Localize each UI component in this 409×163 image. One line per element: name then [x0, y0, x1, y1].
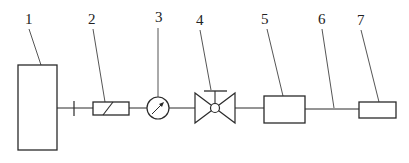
leader-lines [29, 28, 379, 108]
label-1: 1 [25, 11, 33, 27]
label-3: 3 [155, 9, 163, 25]
component-2-filter [93, 102, 129, 115]
component-7-box [359, 102, 396, 118]
component-5-box [264, 96, 305, 123]
component-3-gauge [147, 97, 169, 119]
label-6: 6 [318, 11, 326, 27]
label-4: 4 [196, 12, 204, 28]
leader-6 [322, 29, 334, 108]
valve-ball [211, 104, 220, 113]
component-1-tank [18, 65, 57, 150]
leader-4 [200, 30, 211, 90]
leader-7 [361, 30, 379, 102]
label-5: 5 [261, 11, 269, 27]
leader-1 [29, 29, 41, 65]
label-7: 7 [357, 12, 365, 28]
component-4-valve [195, 91, 235, 123]
leader-2 [93, 29, 105, 102]
schematic-diagram: 1 2 3 4 5 6 7 [0, 0, 409, 163]
leader-5 [267, 29, 283, 96]
label-2: 2 [88, 11, 96, 27]
